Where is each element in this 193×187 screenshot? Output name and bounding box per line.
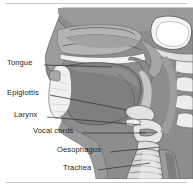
label-oesophagus: Oesophagus: [57, 146, 101, 154]
label-epiglottis: Epiglottis: [7, 89, 39, 97]
anatomy-figure: Tongue Epiglottis Larynx Vocal cords Oes…: [0, 0, 193, 187]
label-vocal-cords: Vocal cords: [33, 127, 73, 135]
lips: [49, 71, 60, 81]
label-larynx: Larynx: [14, 111, 37, 119]
sphenoid-sinus-cavity: [156, 22, 188, 47]
label-tongue: Tongue: [7, 59, 33, 67]
label-trachea: Trachea: [63, 164, 91, 172]
